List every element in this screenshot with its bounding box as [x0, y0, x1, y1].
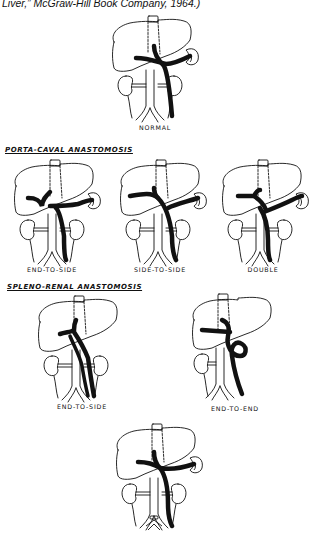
section-title-spleno-renal: SPLENO-RENAL ANASTOMOSIS: [7, 283, 142, 291]
label-pc-side-to-side: SIDE-TO-SIDE: [130, 266, 190, 273]
label-normal: NORMAL: [130, 124, 180, 131]
sr-end-to-side-illustration: [26, 292, 130, 402]
figure-normal: [100, 12, 204, 122]
label-pc-end-to-side: END-TO-SIDE: [22, 266, 82, 273]
figure-pc-double: [210, 156, 311, 266]
label-pc-double: DOUBLE: [238, 266, 288, 273]
figure-pc-end-to-side: [2, 156, 106, 266]
label-sr-end-to-side: END-TO-SIDE: [52, 403, 112, 410]
pc-end-to-side-illustration: [2, 156, 106, 266]
bottom-anatomy-illustration: [104, 420, 208, 533]
figure-bottom: [104, 420, 208, 533]
pc-side-to-side-illustration: [108, 156, 212, 266]
figure-sr-end-to-side: [26, 292, 130, 402]
label-sr-end-to-end: END-TO-END: [205, 405, 265, 412]
figure-pc-side-to-side: [108, 156, 212, 266]
figure-sr-end-to-end: [180, 290, 284, 400]
sr-end-to-end-illustration: [180, 290, 284, 400]
pc-double-illustration: [210, 156, 311, 266]
normal-anatomy-illustration: [100, 12, 204, 122]
section-title-porta-caval: PORTA-CAVAL ANASTOMOSIS: [5, 146, 133, 154]
figure-caption: Liver,” McGraw-Hill Book Company, 1964.): [2, 0, 200, 9]
